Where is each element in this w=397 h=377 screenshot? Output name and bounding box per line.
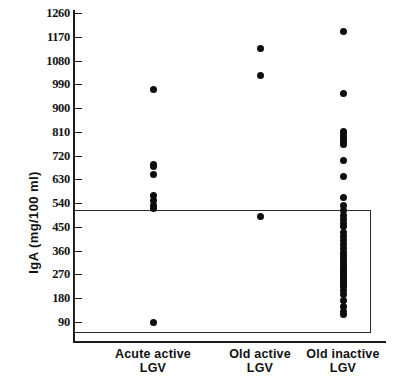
data-point <box>340 141 347 148</box>
data-point <box>340 90 347 97</box>
data-point <box>150 205 157 212</box>
igna-scatter-chart: IgA (mg/100 ml) 126011701080990900810720… <box>0 0 397 377</box>
data-point <box>340 157 347 164</box>
data-point <box>257 72 264 79</box>
data-point <box>340 173 347 180</box>
data-point <box>340 194 347 201</box>
data-point <box>340 28 347 35</box>
data-point <box>150 86 157 93</box>
category-label-line1: Old inactive <box>306 347 379 361</box>
category-label-line2: LGV <box>278 361 397 375</box>
category-label-line1: Acute active <box>115 347 191 361</box>
data-point <box>150 163 157 170</box>
plot-area <box>0 0 397 377</box>
x-axis-category-label: Old inactiveLGV <box>278 347 397 375</box>
data-point <box>257 45 264 52</box>
data-point <box>257 213 264 220</box>
data-point <box>340 311 347 318</box>
data-point <box>150 171 157 178</box>
data-point <box>150 319 157 326</box>
